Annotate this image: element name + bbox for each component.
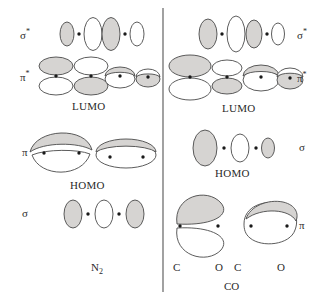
right-pi-orbital (177, 195, 297, 257)
atom-label-c-left: C (173, 262, 180, 273)
atom-label-c-right: C (234, 262, 241, 273)
left-molecule-label: N2 (91, 262, 103, 276)
left-row-label-pi-star: π* (20, 70, 30, 83)
orbital-artwork: .sh { fill:#d6d4d2; stroke:#4a4a4a; stro… (0, 0, 322, 299)
left-row-label-pi: π (22, 147, 28, 158)
right-lumo-marker: LUMO (222, 103, 256, 114)
right-molecule-label: CO (224, 281, 239, 292)
right-row-label-pi: π (299, 220, 305, 231)
right-row-label-sigma: σ (299, 142, 305, 153)
left-pi-orbital (30, 133, 156, 172)
atom-label-o-right: O (277, 262, 285, 273)
right-pi-star-orbital (169, 55, 303, 100)
atom-label-o-left: O (215, 262, 223, 273)
right-homo-marker: HOMO (215, 168, 250, 179)
left-row-label-sigma: σ (22, 208, 28, 219)
right-sigma-star-orbital (199, 16, 285, 52)
left-sigma-star-orbital (60, 18, 144, 51)
mo-diagram-figure: .sh { fill:#d6d4d2; stroke:#4a4a4a; stro… (0, 0, 322, 299)
right-row-label-pi-star: π* (297, 71, 307, 84)
right-sigma-orbital (193, 130, 275, 166)
left-lumo-marker: LUMO (72, 101, 106, 112)
left-sigma-orbital (64, 200, 144, 228)
right-row-label-sigma-star: σ* (297, 28, 307, 41)
left-pi-star-orbital (39, 57, 160, 95)
left-homo-marker: HOMO (70, 180, 105, 191)
left-row-label-sigma-star: σ* (20, 28, 30, 41)
